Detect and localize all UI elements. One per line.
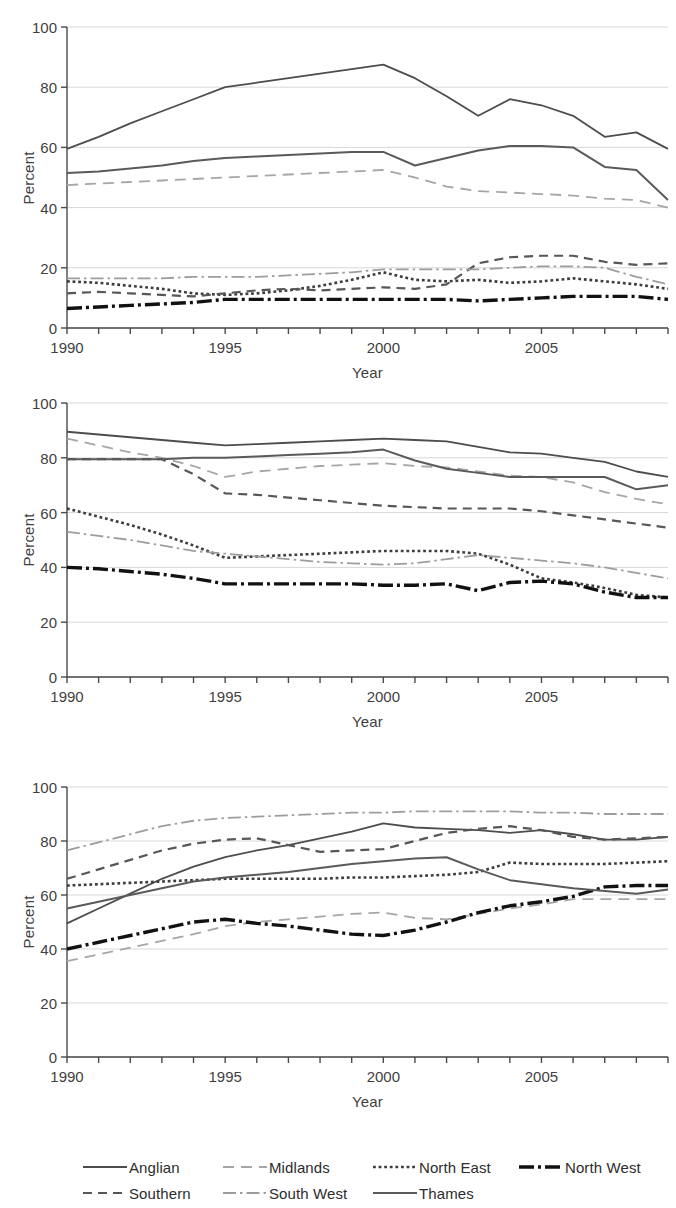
legend-row-top: AnglianMidlandsNorth EastNorth West [0, 1155, 676, 1179]
series-line [67, 532, 668, 579]
y-tick-label: 100 [23, 780, 57, 795]
y-tick-label: 60 [23, 505, 57, 520]
legend-label: North West [565, 1159, 641, 1176]
series-line [67, 65, 668, 149]
x-tick-label: 1995 [208, 340, 241, 355]
y-tick-label: 0 [23, 670, 57, 685]
legend-label: Midlands [269, 1159, 330, 1176]
series-line [67, 811, 668, 850]
x-tick-label: 1990 [50, 340, 83, 355]
y-tick-label: 80 [23, 834, 57, 849]
legend-line-swatch [82, 1160, 128, 1174]
figure-page: Percent Year 020406080100199019952000200… [0, 0, 676, 1208]
legend-line-swatch [372, 1160, 418, 1174]
y-tick-label: 40 [23, 942, 57, 957]
x-axis-title-1: Year [27, 364, 676, 381]
legend-label: South West [269, 1185, 347, 1202]
y-axis-title-3: Percent [2, 912, 22, 932]
line-chart-3 [0, 740, 676, 1120]
x-axis-title-2: Year [27, 713, 676, 730]
x-tick-label: 2005 [525, 689, 558, 704]
legend-item[interactable]: Southern [82, 1181, 191, 1205]
series-line [67, 439, 668, 505]
y-tick-label: 20 [23, 615, 57, 630]
legend-item[interactable]: South West [222, 1181, 347, 1205]
chart-panel-2: Percent Year 020406080100199019952000200… [0, 385, 676, 740]
legend-label: Southern [129, 1185, 191, 1202]
legend-line-swatch [518, 1160, 564, 1174]
y-tick-label: 60 [23, 140, 57, 155]
plot-area-1: Percent Year 020406080100199019952000200… [0, 0, 676, 385]
legend-row-bottom: SouthernSouth WestThames [0, 1181, 676, 1205]
y-tick-label: 0 [23, 1050, 57, 1065]
x-tick-label: 1990 [50, 689, 83, 704]
x-tick-label: 2000 [367, 340, 400, 355]
y-tick-label: 0 [23, 321, 57, 336]
line-chart-1 [0, 0, 676, 385]
legend-label: North East [419, 1159, 491, 1176]
x-tick-label: 1995 [208, 689, 241, 704]
legend-item[interactable]: Thames [372, 1181, 474, 1205]
y-tick-label: 60 [23, 888, 57, 903]
legend-line-swatch [82, 1186, 128, 1200]
y-tick-label: 100 [23, 396, 57, 411]
y-tick-label: 20 [23, 996, 57, 1011]
y-tick-label: 40 [23, 200, 57, 215]
y-tick-label: 20 [23, 260, 57, 275]
y-axis-title-1: Percent [2, 168, 22, 188]
plot-area-2: Percent Year 020406080100199019952000200… [0, 385, 676, 740]
chart-panel-1: Percent Year 020406080100199019952000200… [0, 0, 676, 385]
legend-label: Thames [419, 1185, 474, 1202]
legend-item[interactable]: Anglian [82, 1155, 180, 1179]
legend-line-swatch [372, 1186, 418, 1200]
series-line [67, 450, 668, 490]
x-tick-label: 2005 [525, 340, 558, 355]
y-tick-label: 100 [23, 20, 57, 35]
series-line [67, 170, 668, 208]
x-tick-label: 1995 [208, 1069, 241, 1084]
chart-legend: AnglianMidlandsNorth EastNorth West Sout… [0, 1155, 676, 1208]
series-line [67, 823, 668, 923]
series-line [67, 296, 668, 308]
legend-item[interactable]: Midlands [222, 1155, 330, 1179]
chart-panel-3: Percent Year 020406080100199019952000200… [0, 740, 676, 1120]
line-chart-2 [0, 385, 676, 740]
y-axis-title-2: Percent [2, 530, 22, 550]
series-line [67, 567, 668, 597]
plot-area-3: Percent Year 020406080100199019952000200… [0, 740, 676, 1120]
legend-label: Anglian [129, 1159, 180, 1176]
x-axis-title-3: Year [27, 1093, 676, 1110]
legend-item[interactable]: North East [372, 1155, 491, 1179]
x-tick-label: 2000 [367, 1069, 400, 1084]
series-line [67, 459, 668, 528]
series-line [67, 272, 668, 295]
x-tick-label: 2000 [367, 689, 400, 704]
legend-line-swatch [222, 1160, 268, 1174]
y-tick-label: 80 [23, 80, 57, 95]
x-tick-label: 1990 [50, 1069, 83, 1084]
y-tick-label: 80 [23, 450, 57, 465]
legend-item[interactable]: North West [518, 1155, 641, 1179]
series-line [67, 826, 668, 879]
y-tick-label: 40 [23, 560, 57, 575]
x-tick-label: 2005 [525, 1069, 558, 1084]
legend-line-swatch [222, 1186, 268, 1200]
series-line [67, 861, 668, 885]
series-line [67, 146, 668, 200]
series-line [67, 432, 668, 477]
